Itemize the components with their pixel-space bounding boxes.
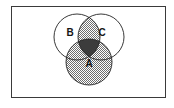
figure-screenshot: B C A xyxy=(0,0,174,108)
set-label-a: A xyxy=(85,58,92,69)
set-label-c: C xyxy=(98,27,105,38)
set-label-b: B xyxy=(66,27,73,38)
venn-diagram: B C A xyxy=(0,0,174,108)
